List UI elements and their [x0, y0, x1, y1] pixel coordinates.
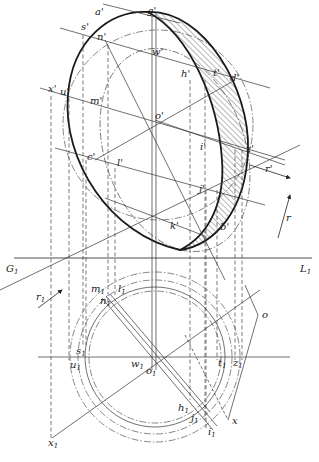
label-z1: z1 [232, 357, 243, 370]
label-s: s' [81, 21, 89, 32]
label-l1: l1 [118, 283, 126, 296]
plan-x-line [185, 335, 228, 420]
label-u: u' [60, 86, 69, 97]
label-x1: x1 [48, 437, 58, 450]
label-k: k' [170, 220, 179, 231]
label-G1: G1 [6, 263, 18, 276]
label-t: t' [213, 67, 220, 78]
labels: a' g' s' n' w' h' t' d' x' u' m' o' i' z… [6, 5, 311, 450]
label-u1: u1 [70, 359, 81, 372]
label-g: g' [147, 5, 156, 16]
label-j1: j1 [189, 412, 199, 425]
label-s1: s1 [76, 345, 86, 358]
label-a: a' [95, 6, 104, 17]
label-c: c' [87, 151, 95, 162]
front-view [0, 4, 300, 370]
tangent-line-a [103, 4, 180, 23]
plan-line-3 [110, 294, 210, 412]
label-j: j' [197, 183, 205, 194]
label-x: x' [48, 83, 56, 94]
plan-view [38, 272, 290, 442]
label-l: l' [117, 157, 123, 168]
plan-line-1 [102, 298, 213, 430]
label-n: n' [97, 31, 106, 42]
label-L1: L1 [299, 263, 311, 276]
label-r1: r1 [36, 291, 45, 304]
label-o1: o1 [146, 365, 157, 378]
label-n1: n1 [100, 295, 111, 308]
label-i: i' [200, 141, 206, 152]
label-w: w' [152, 46, 163, 57]
label-i1: i1 [208, 426, 216, 439]
label-w1: w1 [131, 358, 144, 371]
label-o-plan: o [262, 309, 268, 320]
geometry-figure: a' g' s' n' w' h' t' d' x' u' m' o' i' z… [0, 0, 319, 462]
label-h: h' [181, 68, 190, 79]
label-o: o' [155, 110, 164, 121]
label-x-plan: x [232, 415, 238, 426]
label-h1: h1 [178, 402, 189, 415]
label-d: d' [230, 72, 239, 83]
line-c-o [95, 80, 235, 160]
label-m: m' [90, 95, 102, 106]
label-r: r [286, 212, 292, 223]
label-b: b' [220, 221, 229, 232]
label-z: z' [245, 143, 254, 154]
label-r-prime: r' [265, 163, 273, 174]
plan-line-2 [106, 296, 217, 426]
plan-polygon [228, 285, 258, 420]
